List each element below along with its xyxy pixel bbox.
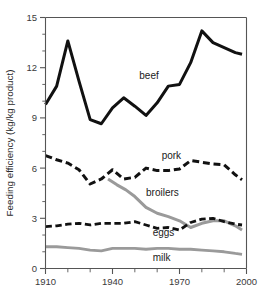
y-tick-label: 0 <box>32 263 37 274</box>
y-tick-label: 6 <box>32 163 37 174</box>
series-label-beef: beef <box>139 70 159 81</box>
series-line-pork <box>46 156 243 184</box>
y-tick-label: 9 <box>32 112 37 123</box>
x-tick-label: 1970 <box>169 276 190 287</box>
ticks-layer: 036912151910194019702000 <box>26 12 257 287</box>
axes-layer <box>46 18 247 269</box>
y-tick-label: 15 <box>26 12 37 23</box>
series-line-milk <box>46 247 243 255</box>
y-axis-title: Feeding efficiency (kg/kg product) <box>4 70 15 217</box>
series-label-broilers: broilers <box>146 187 179 198</box>
y-tick-label: 3 <box>32 213 37 224</box>
x-tick-label: 2000 <box>236 276 257 287</box>
series-label-milk: milk <box>153 252 172 263</box>
chart-canvas: 036912151910194019702000 beefporkbroiler… <box>0 0 265 301</box>
series-label-eggs: eggs <box>153 227 175 238</box>
x-tick-label: 1940 <box>102 276 123 287</box>
feeding-efficiency-chart: 036912151910194019702000 beefporkbroiler… <box>0 0 265 301</box>
series-label-pork: pork <box>162 150 182 161</box>
x-tick-label: 1910 <box>35 276 56 287</box>
series-layer <box>46 31 243 254</box>
y-tick-label: 12 <box>26 62 37 73</box>
